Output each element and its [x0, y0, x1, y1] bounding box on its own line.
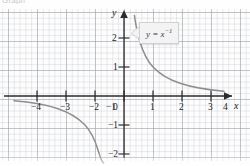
x-tick-label-3: 3 — [208, 102, 213, 112]
equation-base: y = x — [146, 29, 165, 39]
equation-exponent: −1 — [165, 27, 173, 34]
graph-figure: Graph — [0, 0, 250, 166]
equation-callout-label: y = x−1 — [139, 22, 179, 44]
y-axis-label: y — [112, 8, 116, 18]
x-axis-arrow-icon — [224, 92, 232, 100]
y-tick-label--2: −2 — [108, 149, 118, 159]
x-axis-label: x — [234, 101, 238, 111]
y-tick-label-1: 1 — [113, 62, 118, 72]
y-axis — [120, 10, 128, 158]
x-tick-label-1: 1 — [150, 102, 155, 112]
y-tick-label-2: 2 — [112, 33, 117, 43]
x-axis — [4, 92, 232, 100]
origin-label: 0 — [113, 102, 118, 112]
x-tick-label-4: 4 — [223, 102, 228, 112]
x-tick-label--2: −2 — [89, 102, 99, 112]
x-tick-label-2: 2 — [179, 102, 184, 112]
x-tick-label--4: −4 — [31, 102, 41, 112]
y-axis-arrow-icon — [120, 10, 128, 18]
x-tick-label--3: −3 — [60, 102, 70, 112]
plot-area — [0, 0, 250, 166]
y-tick-label--1: −1 — [108, 120, 118, 130]
